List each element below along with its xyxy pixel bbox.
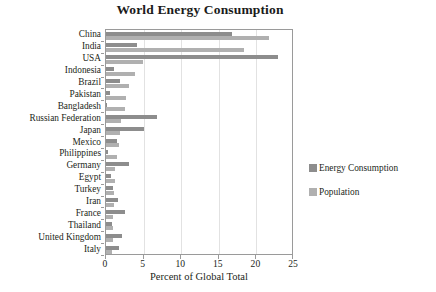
bar-population — [106, 167, 115, 171]
y-axis-tick — [101, 255, 104, 256]
chart-legend: Energy ConsumptionPopulation — [309, 163, 435, 211]
y-axis-label: Russian Federation — [0, 113, 101, 123]
bars-layer — [106, 30, 292, 254]
y-axis-tick — [101, 160, 104, 161]
bar-population — [106, 203, 114, 207]
y-axis-tick — [101, 53, 104, 54]
y-axis-tick — [101, 100, 104, 101]
y-axis-label: Pakistan — [0, 89, 101, 99]
y-axis-tick — [101, 65, 104, 66]
bar-energy-consumption — [106, 103, 107, 107]
legend-entry[interactable]: Population — [309, 187, 435, 198]
bar-group — [106, 197, 292, 209]
bar-energy-consumption — [106, 43, 137, 47]
bar-group — [106, 89, 292, 101]
legend-label: Population — [319, 187, 359, 197]
bar-energy-consumption — [106, 139, 117, 143]
y-axis-tick — [101, 184, 104, 185]
bar-population — [106, 143, 119, 147]
bar-group — [106, 42, 292, 54]
y-axis-tick — [101, 124, 104, 125]
y-axis-label: Indonesia — [0, 65, 101, 75]
x-axis-title: Percent of Global Total — [105, 271, 293, 282]
bar-population — [106, 215, 113, 219]
y-axis-label: United Kingdom — [0, 232, 101, 242]
bar-population — [106, 131, 120, 135]
y-axis-tick — [101, 219, 104, 220]
bar-group — [106, 54, 292, 66]
y-axis-tick — [101, 112, 104, 113]
y-axis-label: Thailand — [0, 220, 101, 230]
bar-population — [106, 179, 115, 183]
bar-group — [106, 30, 292, 42]
y-axis-labels: ChinaIndiaUSAIndonesiaBrazilPakistanBang… — [0, 29, 101, 255]
y-axis-label: Japan — [0, 125, 101, 135]
bar-population — [106, 36, 269, 40]
bar-population — [106, 155, 117, 159]
bar-group — [106, 185, 292, 197]
y-axis-label: Brazil — [0, 77, 101, 87]
bar-population — [106, 119, 121, 123]
bar-energy-consumption — [106, 91, 110, 95]
x-axis-tick-label: 15 — [203, 258, 233, 269]
legend-entry[interactable]: Energy Consumption — [309, 163, 435, 174]
y-axis-label: Iran — [0, 196, 101, 206]
bar-group — [106, 161, 292, 173]
bar-energy-consumption — [106, 115, 157, 119]
y-axis-tick — [101, 77, 104, 78]
y-axis-label: India — [0, 41, 101, 51]
legend-label: Energy Consumption — [319, 163, 398, 173]
bar-group — [106, 208, 292, 220]
bar-population — [106, 250, 112, 254]
bar-energy-consumption — [106, 198, 118, 202]
y-axis-tick — [101, 243, 104, 244]
x-axis-tick-label: 25 — [278, 258, 308, 269]
y-axis-label: Turkey — [0, 184, 101, 194]
bar-group — [106, 66, 292, 78]
bar-energy-consumption — [106, 186, 113, 190]
bar-population — [106, 226, 113, 230]
y-axis-tick — [101, 41, 104, 42]
bar-population — [106, 60, 143, 64]
bar-group — [106, 101, 292, 113]
bar-energy-consumption — [106, 234, 122, 238]
bar-group — [106, 78, 292, 90]
bar-population — [106, 72, 135, 76]
bar-group — [106, 149, 292, 161]
y-axis-tick — [101, 88, 104, 89]
y-axis-tick — [101, 231, 104, 232]
y-axis-tick — [101, 196, 104, 197]
bar-group — [106, 173, 292, 185]
plot-area — [105, 29, 293, 255]
bar-population — [106, 191, 114, 195]
y-axis-label: Mexico — [0, 137, 101, 147]
legend-swatch-icon — [309, 188, 317, 196]
x-axis-tick-label: 20 — [240, 258, 270, 269]
bar-population — [106, 238, 113, 242]
chart-figure: World Energy Consumption ChinaIndiaUSAIn… — [0, 0, 436, 292]
x-axis-tick-labels: 0510152025 — [105, 258, 293, 271]
y-axis-label: France — [0, 208, 101, 218]
bar-energy-consumption — [106, 55, 278, 59]
x-axis-tick-label: 5 — [128, 258, 158, 269]
bar-energy-consumption — [106, 210, 125, 214]
bar-population — [106, 48, 244, 52]
y-axis-tick — [101, 136, 104, 137]
bar-population — [106, 107, 125, 111]
bar-group — [106, 220, 292, 232]
x-axis-tick-label: 10 — [165, 258, 195, 269]
y-axis-label: USA — [0, 53, 101, 63]
bar-energy-consumption — [106, 174, 111, 178]
y-axis-label: Bangladesh — [0, 101, 101, 111]
bar-population — [106, 96, 126, 100]
bar-population — [106, 84, 129, 88]
bar-group — [106, 232, 292, 244]
y-axis-label: Germany — [0, 160, 101, 170]
bar-group — [106, 125, 292, 137]
y-axis-label: Italy — [0, 244, 101, 254]
bar-energy-consumption — [106, 67, 114, 71]
y-axis-label: China — [0, 29, 101, 39]
bar-energy-consumption — [106, 127, 144, 131]
bar-energy-consumption — [106, 222, 112, 226]
bar-group — [106, 137, 292, 149]
